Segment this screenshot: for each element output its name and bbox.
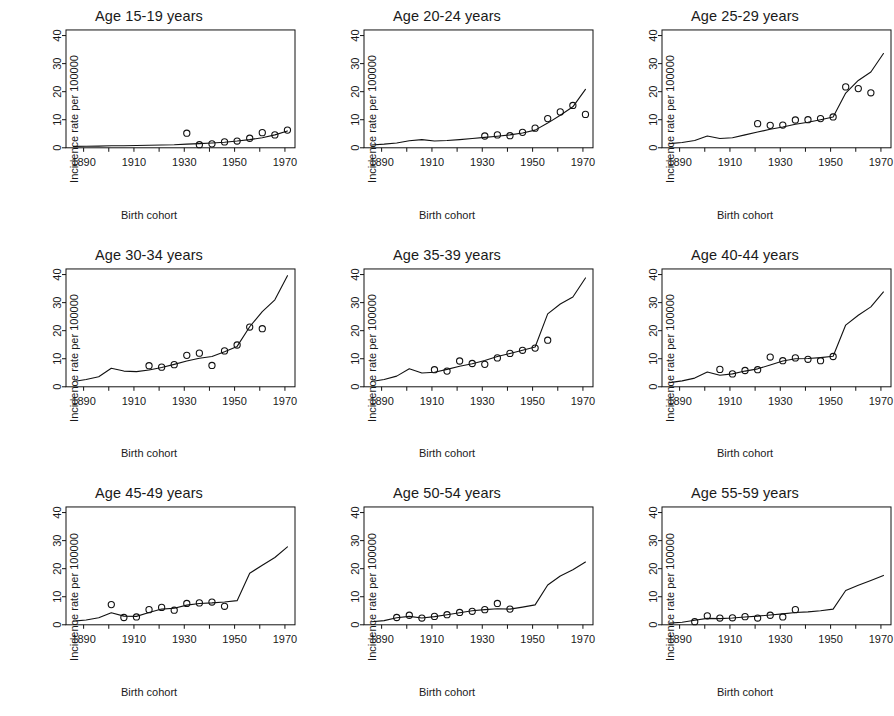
- x-axis-tick-label: 1890: [369, 394, 393, 406]
- y-axis-tick-label: 20: [647, 86, 659, 98]
- data-point: [196, 142, 202, 148]
- plot-frame: [662, 507, 891, 625]
- data-point: [482, 133, 488, 139]
- chart-panel: Age 20-24 yearsIncidence rate per 100000…: [298, 0, 596, 239]
- data-point: [146, 362, 152, 368]
- y-axis-tick-label: 10: [647, 591, 659, 603]
- x-axis-tick-label: 1890: [667, 394, 691, 406]
- x-axis-tick-label: 1910: [122, 156, 146, 168]
- x-axis-tick-label: 1970: [869, 394, 893, 406]
- data-point: [121, 615, 127, 621]
- fitted-line: [74, 547, 288, 621]
- y-axis-tick-label: 10: [349, 114, 361, 126]
- chart-panel: Age 50-54 yearsIncidence rate per 100000…: [298, 477, 596, 716]
- chart-panel: Age 30-34 yearsIncidence rate per 100000…: [0, 239, 298, 478]
- plot-frame: [662, 30, 891, 148]
- x-axis-tick-label: 1970: [273, 633, 297, 645]
- data-point: [259, 130, 265, 136]
- y-axis-tick-label: 10: [51, 352, 63, 364]
- y-axis-tick-label: 40: [51, 507, 63, 519]
- data-point: [406, 612, 412, 618]
- fitted-line: [372, 562, 586, 622]
- plot-area: 01020304018901910193019501970: [298, 239, 596, 478]
- x-axis-tick-label: 1910: [718, 633, 742, 645]
- x-axis-tick-label: 1890: [369, 156, 393, 168]
- x-axis-tick-label: 1910: [420, 633, 444, 645]
- fitted-line: [670, 576, 884, 624]
- y-axis-tick-label: 20: [647, 563, 659, 575]
- x-axis-tick-label: 1930: [768, 633, 792, 645]
- x-axis-tick-label: 1910: [420, 394, 444, 406]
- x-axis-tick-label: 1950: [818, 633, 842, 645]
- x-axis-tick-label: 1930: [172, 633, 196, 645]
- x-axis-tick-label: 1970: [571, 394, 595, 406]
- chart-panel: Age 15-19 yearsIncidence rate per 100000…: [0, 0, 298, 239]
- data-point: [855, 85, 861, 91]
- data-point: [557, 109, 563, 115]
- y-axis-tick-label: 20: [349, 563, 361, 575]
- y-axis-tick-label: 30: [647, 58, 659, 70]
- x-axis-tick-label: 1890: [71, 633, 95, 645]
- y-axis-tick-label: 40: [51, 29, 63, 41]
- y-axis-tick-label: 30: [51, 296, 63, 308]
- chart-panel: Age 40-44 yearsIncidence rate per 100000…: [596, 239, 894, 478]
- x-axis-tick-label: 1910: [420, 156, 444, 168]
- plot-area: 01020304018901910193019501970: [596, 477, 894, 716]
- y-axis-tick-label: 40: [51, 268, 63, 280]
- data-point: [146, 607, 152, 613]
- y-axis-tick-label: 40: [349, 29, 361, 41]
- data-point: [792, 354, 798, 360]
- data-point: [792, 117, 798, 123]
- x-axis-tick-label: 1910: [718, 156, 742, 168]
- x-axis-tick-label: 1930: [470, 633, 494, 645]
- x-axis-tick-label: 1950: [222, 633, 246, 645]
- data-point: [817, 116, 823, 122]
- x-axis-tick-label: 1970: [571, 633, 595, 645]
- y-axis-tick-label: 0: [51, 145, 63, 151]
- y-axis-tick-label: 30: [647, 296, 659, 308]
- x-axis-tick-label: 1890: [71, 156, 95, 168]
- y-axis-tick-label: 10: [349, 352, 361, 364]
- data-point: [843, 84, 849, 90]
- y-axis-tick-label: 30: [51, 58, 63, 70]
- y-axis-tick-label: 10: [51, 591, 63, 603]
- x-axis-tick-label: 1890: [667, 633, 691, 645]
- y-axis-tick-label: 0: [51, 383, 63, 389]
- data-point: [482, 361, 488, 367]
- plot-area: 01020304018901910193019501970: [596, 239, 894, 478]
- y-axis-tick-label: 0: [349, 622, 361, 628]
- fitted-line: [372, 89, 586, 145]
- x-axis-tick-label: 1930: [470, 394, 494, 406]
- data-point: [457, 358, 463, 364]
- fitted-line: [74, 131, 288, 146]
- data-point: [284, 127, 290, 133]
- panel-grid: Age 15-19 yearsIncidence rate per 100000…: [0, 0, 894, 716]
- data-point: [209, 599, 215, 605]
- y-axis-tick-label: 40: [647, 507, 659, 519]
- y-axis-tick-label: 10: [647, 114, 659, 126]
- data-point: [494, 354, 500, 360]
- x-axis-tick-label: 1970: [869, 156, 893, 168]
- data-point: [570, 102, 576, 108]
- data-point: [792, 607, 798, 613]
- x-axis-tick-label: 1950: [520, 156, 544, 168]
- x-axis-tick-label: 1930: [768, 156, 792, 168]
- y-axis-tick-label: 0: [647, 145, 659, 151]
- x-axis-tick-label: 1950: [520, 394, 544, 406]
- y-axis-tick-label: 0: [51, 622, 63, 628]
- data-point: [133, 614, 139, 620]
- y-axis-tick-label: 40: [647, 268, 659, 280]
- data-point: [209, 141, 215, 147]
- plot-frame: [364, 30, 593, 148]
- y-axis-tick-label: 20: [349, 324, 361, 336]
- x-axis-tick-label: 1970: [273, 394, 297, 406]
- x-axis-tick-label: 1950: [222, 156, 246, 168]
- data-point: [780, 614, 786, 620]
- data-point: [184, 130, 190, 136]
- data-point: [494, 601, 500, 607]
- chart-panel: Age 45-49 yearsIncidence rate per 100000…: [0, 477, 298, 716]
- plot-frame: [364, 507, 593, 625]
- plot-frame: [364, 269, 593, 387]
- data-point: [507, 133, 513, 139]
- fitted-line: [670, 54, 884, 144]
